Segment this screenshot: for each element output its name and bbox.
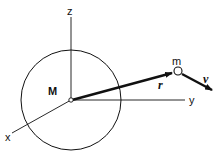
orbiting-mass-label: m bbox=[172, 55, 181, 67]
y-axis-label: y bbox=[189, 94, 195, 106]
z-axis-label: z bbox=[67, 5, 73, 17]
position-vector-r bbox=[72, 73, 172, 100]
origin-point bbox=[69, 98, 73, 102]
orbiting-mass-m bbox=[174, 67, 182, 75]
gravitation-diagram: z y x M m r v bbox=[0, 0, 224, 155]
velocity-vector-label: v bbox=[203, 72, 209, 86]
central-mass-label: M bbox=[48, 85, 57, 97]
position-vector-label: r bbox=[158, 78, 163, 92]
x-axis-label: x bbox=[5, 131, 11, 143]
